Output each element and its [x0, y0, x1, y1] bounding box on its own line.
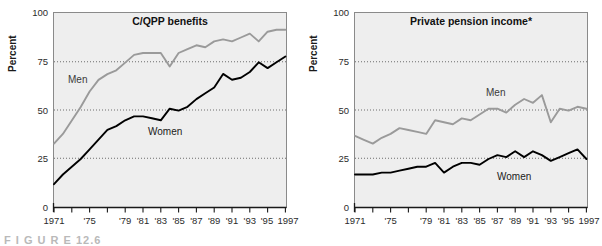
y-tick-label-0: 0 — [344, 202, 349, 213]
x-tick-label-81: '81 — [438, 215, 450, 226]
x-tick-label-87: '87 — [491, 215, 503, 226]
x-tick-label-91: '91 — [527, 215, 539, 226]
chart-panel-cqpp-benefits: Percent 100 75 50 25 0 C/QPP benefits Me… — [0, 0, 301, 246]
x-tick-label-83: '83 — [155, 215, 167, 226]
x-tick-label-83: '83 — [456, 215, 468, 226]
x-tick-label-1971: 1971 — [344, 215, 365, 226]
y-tick-label-25: 25 — [338, 153, 349, 164]
series-label-women: Women — [497, 171, 531, 182]
chart-title: Private pension income* — [410, 15, 533, 27]
x-tick-label-91: '91 — [226, 215, 238, 226]
plot-area-background — [355, 13, 588, 208]
x-tick-label-85: '85 — [172, 215, 184, 226]
x-tick-label-85: '85 — [473, 215, 485, 226]
x-axis-ticks — [355, 208, 586, 213]
series-label-women: Women — [148, 126, 182, 137]
plot-area-background — [54, 13, 287, 208]
y-tick-label-0: 0 — [43, 202, 48, 213]
figure-caption: F I G U R E 12.6 — [4, 234, 101, 246]
y-axis-title: Percent — [7, 35, 18, 72]
private-pension-income-svg: Percent 100 75 50 25 0 Private pension i… — [301, 0, 602, 246]
x-tick-label-75: '75 — [384, 215, 396, 226]
y-tick-label-50: 50 — [338, 105, 349, 116]
x-tick-label-93: '93 — [545, 215, 557, 226]
chart-title: C/QPP benefits — [132, 15, 208, 27]
y-tick-label-100: 100 — [333, 7, 349, 18]
x-tick-label-1997: 1997 — [578, 215, 599, 226]
x-tick-label-1997: 1997 — [277, 215, 298, 226]
y-tick-label-75: 75 — [338, 56, 349, 67]
chart-panel-private-pension-income: Percent 100 75 50 25 0 Private pension i… — [301, 0, 602, 246]
x-tick-label-79: '79 — [119, 215, 131, 226]
y-tick-label-50: 50 — [37, 105, 48, 116]
x-tick-label-95: '95 — [261, 215, 273, 226]
x-axis-ticks — [54, 208, 285, 213]
x-tick-label-79: '79 — [420, 215, 432, 226]
x-tick-label-95: '95 — [562, 215, 574, 226]
x-tick-label-87: '87 — [190, 215, 202, 226]
x-tick-label-89: '89 — [208, 215, 220, 226]
series-label-men: Men — [486, 87, 505, 98]
series-label-men: Men — [68, 74, 87, 85]
figure-container: Percent 100 75 50 25 0 C/QPP benefits Me… — [0, 0, 602, 246]
x-tick-label-93: '93 — [244, 215, 256, 226]
cqpp-benefits-svg: Percent 100 75 50 25 0 C/QPP benefits Me… — [0, 0, 301, 246]
x-tick-label-1971: 1971 — [43, 215, 64, 226]
y-tick-label-25: 25 — [37, 153, 48, 164]
x-tick-label-89: '89 — [509, 215, 521, 226]
x-tick-label-75: '75 — [83, 215, 95, 226]
y-tick-label-75: 75 — [37, 56, 48, 67]
x-tick-label-81: '81 — [137, 215, 149, 226]
y-axis-title: Percent — [308, 35, 319, 72]
y-tick-label-100: 100 — [32, 7, 48, 18]
